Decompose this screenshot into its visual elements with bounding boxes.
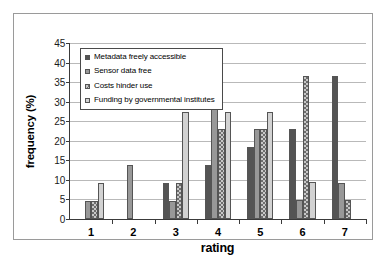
- bar: [85, 201, 92, 219]
- x-tick-label: 4: [215, 226, 221, 238]
- y-tick-label: 35: [54, 77, 70, 88]
- bar: [163, 183, 170, 219]
- x-tick-mark: [324, 219, 325, 224]
- x-tick-mark: [366, 219, 367, 224]
- bar: [176, 183, 183, 219]
- x-tick-mark: [112, 219, 113, 224]
- bar: [303, 76, 310, 219]
- y-tick-label: 0: [60, 214, 70, 225]
- bar: [254, 129, 261, 219]
- bar: [127, 165, 134, 219]
- legend-item: Funding by governmental institutes: [85, 96, 218, 104]
- legend-item: Costs hinder use: [85, 82, 218, 90]
- x-tick-mark: [239, 219, 240, 224]
- x-tick-label: 1: [88, 226, 94, 238]
- bar: [309, 182, 316, 219]
- x-tick-label: 5: [257, 226, 263, 238]
- legend-item: Metadata freely accessible: [85, 53, 218, 61]
- y-tick-label: 15: [54, 155, 70, 166]
- y-tick-label: 5: [60, 194, 70, 205]
- legend-swatch-icon: [85, 55, 90, 60]
- y-tick-label: 30: [54, 96, 70, 107]
- legend-swatch-icon: [85, 69, 90, 74]
- bar-chart: frequency (%) 0510152025303540451234567 …: [0, 0, 388, 262]
- x-tick-label: 6: [300, 226, 306, 238]
- y-tick-label: 40: [54, 57, 70, 68]
- x-tick-mark: [197, 219, 198, 224]
- bar: [98, 183, 105, 219]
- legend-item: Sensor data free: [85, 67, 218, 75]
- x-axis-title: rating: [69, 241, 366, 255]
- y-tick-label: 10: [54, 174, 70, 185]
- bar: [182, 112, 189, 219]
- y-tick-label: 25: [54, 116, 70, 127]
- figure-frame: frequency (%) 0510152025303540451234567 …: [13, 13, 373, 240]
- x-tick-mark: [155, 219, 156, 224]
- legend-label: Metadata freely accessible: [94, 53, 186, 61]
- legend-label: Sensor data free: [94, 67, 152, 75]
- bar: [332, 76, 339, 219]
- bar: [289, 129, 296, 219]
- bar: [267, 112, 274, 219]
- legend-label: Funding by governmental institutes: [94, 96, 215, 104]
- gridline: [70, 43, 366, 44]
- chart-legend: Metadata freely accessibleSensor data fr…: [80, 48, 223, 110]
- legend-swatch-icon: [85, 98, 90, 103]
- x-tick-label: 3: [173, 226, 179, 238]
- x-tick-mark: [281, 219, 282, 224]
- legend-label: Costs hinder use: [94, 82, 152, 90]
- gridline: [70, 121, 366, 122]
- y-axis-title: frequency (%): [22, 43, 38, 220]
- legend-swatch-icon: [85, 84, 90, 89]
- y-tick-label: 45: [54, 38, 70, 49]
- bar: [345, 200, 352, 219]
- y-tick-label: 20: [54, 135, 70, 146]
- x-tick-label: 7: [342, 226, 348, 238]
- x-tick-label: 2: [130, 226, 136, 238]
- bar: [225, 112, 232, 219]
